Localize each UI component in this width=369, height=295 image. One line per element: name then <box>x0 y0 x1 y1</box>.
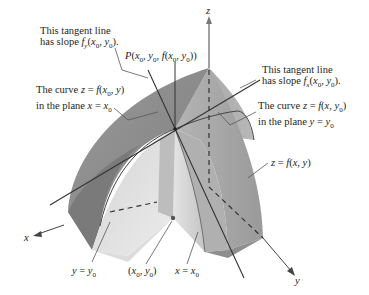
label-curve-x0-line1: The curve z = f(x0, y) <box>36 84 124 100</box>
partial-derivative-diagram: This tangent line has slope fy(x0, y0). … <box>0 0 369 295</box>
label-tangent-fx-line1: This tangent line <box>262 64 341 75</box>
y-axis-arrow <box>287 267 295 276</box>
point-p <box>173 127 177 131</box>
label-base-point: (x0, y0) <box>128 265 157 281</box>
label-curve-y0-line2: in the plane y = y0 <box>258 116 346 132</box>
label-tangent-fy-line2: has slope fy(x0, y0). <box>40 36 119 52</box>
x-axis <box>38 225 64 234</box>
label-z-axis: z <box>206 5 210 16</box>
y-axis <box>263 238 292 272</box>
label-surface: z = f(x, y) <box>271 157 311 168</box>
inner-wall <box>158 129 175 218</box>
label-plane-y0: y = y0 <box>72 265 96 281</box>
label-tangent-fy-line1: This tangent line <box>40 25 119 36</box>
label-curve-y0: The curve z = f(x, y0) in the plane y = … <box>258 100 346 132</box>
x-axis-arrow <box>33 231 42 237</box>
label-x-axis: x <box>24 232 29 243</box>
label-tangent-fx: This tangent line has slope fx(x0, y0). <box>262 64 341 91</box>
label-curve-x0: The curve z = f(x0, y) in the plane x = … <box>36 84 124 116</box>
label-y-axis: y <box>295 275 300 286</box>
label-curve-y0-line1: The curve z = f(x, y0) <box>258 100 346 116</box>
label-tangent-fy: This tangent line has slope fy(x0, y0). <box>40 25 119 52</box>
label-tangent-fx-line2: has slope fx(x0, y0). <box>262 75 341 91</box>
label-curve-x0-line2: in the plane x = x0 <box>36 100 124 116</box>
label-plane-x0: x = x0 <box>175 265 199 281</box>
base-point <box>171 216 175 220</box>
label-point-p: P(x0, y0, f(x0, y0)) <box>125 50 197 66</box>
z-axis-arrow <box>206 16 212 24</box>
